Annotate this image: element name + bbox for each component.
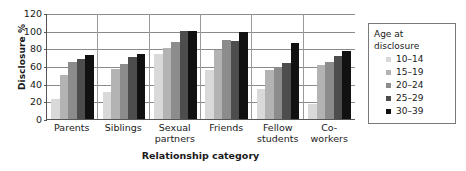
x-axis-label: Friends — [201, 123, 253, 144]
legend-items: 10–1415–1920–2425–2930–39 — [374, 53, 451, 118]
legend-item: 30–39 — [374, 105, 451, 118]
x-axis-label: Parents — [46, 123, 98, 144]
plot-area — [46, 14, 355, 120]
bar — [77, 59, 86, 119]
bar-group — [201, 14, 252, 119]
legend-swatch-icon — [386, 96, 391, 101]
bar — [257, 89, 266, 119]
legend-item-label: 20–24 — [396, 80, 423, 91]
y-axis-tick-60: 60 — [30, 62, 42, 72]
legend-item-label: 15–19 — [396, 67, 423, 78]
bar — [342, 51, 351, 119]
bar — [111, 69, 120, 119]
y-tickmark-0 — [44, 120, 48, 121]
x-axis-label: Siblings — [98, 123, 150, 144]
bar — [231, 41, 240, 119]
bar — [325, 62, 334, 119]
x-axis-title: Relationship category — [46, 150, 355, 161]
bar — [103, 92, 112, 119]
y-axis-tick-120: 120 — [24, 9, 42, 19]
bar — [68, 62, 77, 119]
legend-item: 20–24 — [374, 79, 451, 92]
bar — [128, 57, 137, 119]
bar-group — [252, 14, 303, 119]
legend-item-label: 25–29 — [396, 93, 423, 104]
bar — [317, 65, 326, 119]
bar — [274, 67, 283, 119]
bar — [188, 31, 197, 119]
bar-group — [304, 14, 355, 119]
bar — [239, 32, 248, 119]
bar — [265, 70, 274, 119]
bar — [137, 54, 146, 119]
bar — [334, 56, 343, 119]
y-axis-tick-80: 80 — [30, 45, 42, 55]
bar-group — [47, 14, 98, 119]
legend-swatch-icon — [386, 109, 391, 114]
legend-item-label: 10–14 — [396, 54, 423, 65]
legend-item: 25–29 — [374, 92, 451, 105]
bar — [171, 42, 180, 119]
bar-group — [98, 14, 149, 119]
legend-item: 15–19 — [374, 66, 451, 79]
y-axis-tick-20: 20 — [30, 98, 42, 108]
bar — [222, 40, 231, 119]
bar — [163, 48, 172, 119]
bar — [51, 99, 60, 119]
x-axis-label: Fellow students — [252, 123, 304, 144]
y-axis-tick-40: 40 — [30, 80, 42, 90]
legend-title: Age at disclosure — [374, 28, 451, 52]
bar — [120, 64, 129, 119]
legend-swatch-icon — [386, 70, 391, 75]
bar — [85, 55, 94, 119]
chart-figure: Disclosure % 120100806040200 ParentsSibl… — [0, 0, 466, 171]
x-axis-label: Co-workers — [304, 123, 356, 144]
legend-item: 10–14 — [374, 53, 451, 66]
bar — [154, 54, 163, 119]
y-axis-tick-100: 100 — [24, 27, 42, 37]
legend: Age at disclosure 10–1415–1920–2425–2930… — [368, 23, 456, 124]
legend-swatch-icon — [386, 83, 391, 88]
bar — [308, 104, 317, 119]
y-axis-tick-0: 0 — [36, 115, 42, 125]
bar-group — [150, 14, 201, 119]
y-axis-tick-labels: 120100806040200 — [16, 14, 42, 120]
bar — [60, 75, 69, 119]
legend-swatch-icon — [386, 57, 391, 62]
x-axis-label: Sexual partners — [149, 123, 201, 144]
bar — [205, 70, 214, 119]
x-axis-category-labels: ParentsSiblingsSexual partnersFriendsFel… — [46, 123, 355, 144]
bar — [282, 63, 291, 119]
bar — [180, 31, 189, 119]
bar — [214, 50, 223, 119]
bar-groups — [47, 14, 355, 119]
bar — [291, 43, 300, 119]
legend-item-label: 30–39 — [396, 106, 423, 117]
